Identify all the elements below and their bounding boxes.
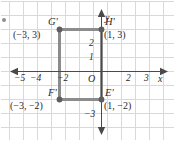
vertex-dot-f xyxy=(57,97,63,103)
coordinate-plane-figure: G' (−3, 3) H' (1, 3) F' (−3, −2) E' (1, … xyxy=(0,0,175,141)
y-tick-label-neg3: −3 xyxy=(84,110,95,120)
point-coord-g: (−3, 3) xyxy=(13,30,40,40)
x-axis-label: x xyxy=(158,74,162,84)
point-label-g: G' xyxy=(48,17,58,28)
x-tick-label-neg2: −2 xyxy=(57,74,68,84)
point-label-e: E' xyxy=(105,88,114,99)
y-axis-label: y xyxy=(105,13,109,23)
origin-label: O xyxy=(88,74,95,84)
x-tick-label-neg5: −5 xyxy=(14,74,25,84)
y-tick-label-2: 2 xyxy=(89,39,94,49)
x-tick-label-3: 3 xyxy=(144,74,149,84)
vertex-dots xyxy=(57,27,105,103)
y-axis-arrow-down xyxy=(98,127,105,135)
point-label-f: F' xyxy=(48,88,57,99)
point-coord-h: (1, 3) xyxy=(104,30,126,40)
y-tick-label-1: 1 xyxy=(89,53,94,63)
point-coord-e: (1, −2) xyxy=(104,101,131,111)
coordinate-plane-canvas xyxy=(0,0,175,141)
point-coord-f: (−3, −2) xyxy=(10,101,43,111)
x-tick-label-2: 2 xyxy=(126,74,131,84)
x-tick-label-neg4: −4 xyxy=(30,74,41,84)
